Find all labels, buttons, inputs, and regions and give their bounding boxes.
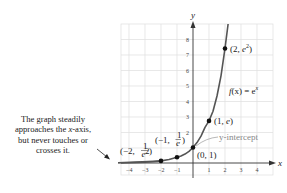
y-ticks: 2 3 4 5 6 7 8: [186, 37, 189, 136]
label-point-2: (2, e2): [230, 43, 252, 54]
svg-text:): ): [149, 146, 152, 156]
svg-text:3: 3: [240, 167, 243, 173]
x-ticks: −4 −3 −2 −1 1 2 3 4: [126, 167, 259, 173]
svg-text:2: 2: [224, 167, 227, 173]
label-point-1: (1, e): [214, 116, 233, 126]
y-axis-label: y: [190, 10, 195, 20]
point-0: [191, 145, 196, 150]
svg-text:−2: −2: [158, 167, 164, 173]
intercept-label: y-intercept: [219, 132, 258, 142]
svg-text:(−2,: (−2,: [120, 146, 135, 156]
point-minus2: [159, 159, 164, 164]
point-minus1: [175, 155, 180, 160]
label-point-minus2: (−2, 1 e 2 ): [120, 141, 152, 159]
point-2: [223, 46, 228, 51]
svg-text:4: 4: [186, 99, 189, 105]
exponential-curve: [121, 24, 228, 163]
svg-text:3: 3: [186, 114, 189, 120]
svg-text:6: 6: [186, 68, 189, 74]
asymptote-note: The graph steadily approaches the x-axis…: [0, 114, 106, 156]
label-point-0: (0, 1): [197, 150, 217, 160]
x-axis-arrow-icon: [269, 161, 276, 166]
svg-text:−3: −3: [142, 167, 148, 173]
point-1: [207, 119, 212, 124]
svg-text:5: 5: [186, 83, 189, 89]
svg-text:e: e: [176, 138, 180, 148]
function-label: f(x) = ex: [229, 85, 259, 96]
y-axis-arrow-icon: [191, 21, 196, 28]
svg-text:−4: −4: [126, 167, 132, 173]
svg-text:1: 1: [208, 167, 211, 173]
svg-text:4: 4: [256, 167, 259, 173]
svg-text:2: 2: [186, 130, 189, 136]
x-axis-label: x: [277, 158, 282, 168]
svg-text:8: 8: [186, 37, 189, 43]
svg-text:(−1,: (−1,: [155, 135, 170, 145]
exponential-graph: y x −4 −3 −2 −1 1 2 3 4 2 3 4 5 6 7 8 (2…: [0, 0, 287, 193]
svg-text:7: 7: [186, 52, 189, 58]
svg-text:): ): [182, 135, 185, 145]
svg-text:−1: −1: [174, 167, 180, 173]
